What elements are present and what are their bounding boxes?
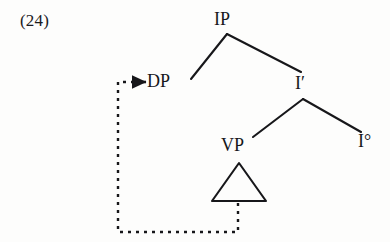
branch-ip-ibar: [227, 34, 301, 72]
node-label-i-bar: I′: [295, 74, 305, 92]
movement-path-line: [118, 82, 238, 232]
branch-ibar-vp: [253, 99, 303, 137]
tree-branches: [191, 34, 361, 137]
node-label-dp: DP: [147, 72, 170, 90]
branch-ibar-i0: [303, 99, 361, 132]
node-label-vp: VP: [221, 136, 244, 154]
node-label-ip: IP: [214, 10, 230, 28]
vp-triangle: [212, 163, 266, 201]
node-label-i-zero: I°: [358, 132, 371, 150]
tree-diagram-canvas: [0, 0, 390, 242]
syntax-tree-figure: (24) IP DP I′ VP I°: [0, 0, 390, 242]
branch-ip-dp: [191, 34, 227, 79]
